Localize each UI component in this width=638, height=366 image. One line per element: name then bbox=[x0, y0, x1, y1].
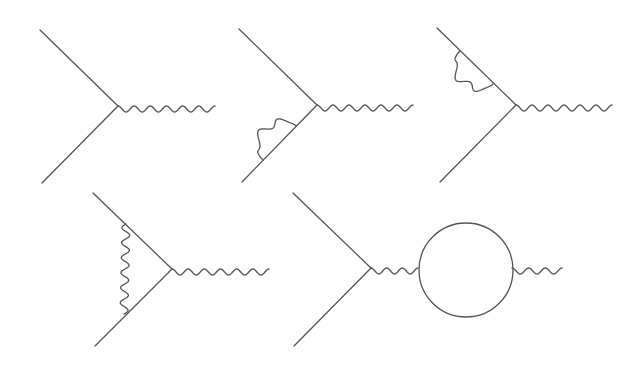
vertex-exchange-photon bbox=[120, 224, 130, 314]
self-energy-photon-loop bbox=[258, 119, 296, 160]
diagram-self-energy-upper-leg bbox=[437, 28, 612, 182]
photon-propagator bbox=[516, 105, 612, 111]
incoming-fermion-line bbox=[40, 30, 118, 106]
incoming-fermion-line bbox=[437, 28, 516, 105]
fermion-loop-circle bbox=[419, 223, 513, 317]
diagram-vacuum-polarization bbox=[293, 193, 562, 346]
photon-propagator bbox=[118, 106, 215, 112]
incoming-fermion-line bbox=[239, 29, 317, 105]
photon-propagator bbox=[371, 268, 418, 274]
diagram-vertex-correction bbox=[93, 193, 269, 346]
incoming-fermion-line bbox=[93, 193, 172, 269]
diagram-layer bbox=[40, 28, 612, 346]
outgoing-fermion-line bbox=[42, 106, 118, 183]
feynman-diagrams-figure bbox=[0, 0, 638, 366]
outgoing-photon bbox=[512, 268, 562, 274]
photon-propagator bbox=[317, 105, 413, 111]
self-energy-photon-loop bbox=[455, 51, 493, 91]
incoming-fermion-line bbox=[293, 193, 371, 268]
diagram-self-energy-lower-leg bbox=[239, 29, 413, 182]
diagram-tree-vertex bbox=[40, 30, 215, 183]
outgoing-fermion-line bbox=[294, 268, 371, 346]
outgoing-fermion-line bbox=[440, 105, 516, 182]
photon-propagator bbox=[172, 269, 269, 275]
outgoing-fermion-line bbox=[242, 105, 317, 182]
outgoing-fermion-line bbox=[95, 269, 172, 346]
